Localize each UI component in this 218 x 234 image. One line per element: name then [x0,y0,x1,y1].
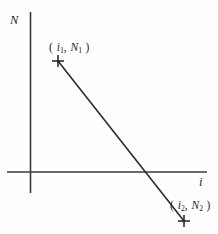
point-1-label-sep: , [64,41,71,53]
point-2-label-sep: , [185,199,192,211]
point-1-label-sub2: 1 [78,46,82,55]
point-1-label-close: ) [82,41,90,53]
point-1-label-open: ( [49,41,57,53]
point-2-label-sub1: 2 [181,204,185,213]
point-2-label: ( i2, N2 ) [170,200,211,212]
x-axis-label: i [199,176,202,189]
point-1-label: ( i1, N1 ) [49,42,90,54]
point-2-label-open: ( [170,199,178,211]
line-through-two-points-figure: N i ( i1, N1 ) ( i2, N2 ) [0,0,218,234]
point-2-label-close: ) [203,199,211,211]
y-axis-label: N [10,14,18,27]
point-2-label-sub2: 2 [199,204,203,213]
point-1-label-sub1: 1 [60,46,64,55]
data-line-segment [58,61,184,221]
